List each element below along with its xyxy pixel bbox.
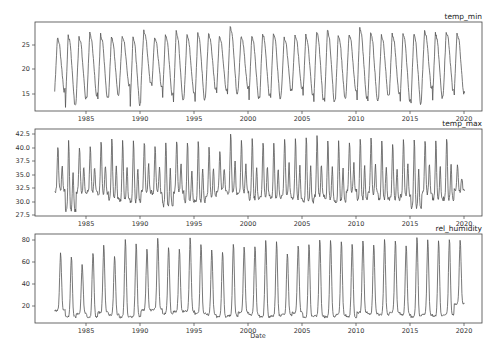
x-tick-label: 2005 (294, 220, 311, 228)
series-line-rel-humidity (55, 238, 465, 319)
x-tick-label: 1995 (186, 327, 203, 335)
series-line-temp-max (55, 134, 465, 212)
figure: temp_min15202519851990199520002005201020… (0, 0, 503, 353)
x-tick-label: 1985 (78, 220, 95, 228)
panel-title: temp_max (442, 119, 482, 128)
x-tick-label: 2010 (348, 115, 365, 123)
x-tick-label: 1995 (186, 220, 203, 228)
x-tick-label: 2000 (240, 220, 257, 228)
y-tick-label: 37.5 (16, 157, 30, 165)
y-tick-label: 40 (22, 280, 30, 288)
y-tick-label: 20 (22, 302, 30, 310)
x-tick-label: 2020 (456, 327, 473, 335)
y-tick-label: 60 (22, 258, 30, 266)
y-tick-label: 25 (22, 41, 30, 49)
x-tick-label: 2000 (240, 115, 257, 123)
x-tick-label: 1990 (132, 115, 149, 123)
x-axis-label: Date (250, 332, 266, 340)
y-tick-label: 30.0 (16, 198, 30, 206)
y-tick-label: 42.5 (16, 130, 30, 138)
x-tick-label: 2005 (294, 115, 311, 123)
y-tick-label: 32.5 (16, 184, 30, 192)
x-tick-label: 1995 (186, 115, 203, 123)
x-tick-label: 1985 (78, 327, 95, 335)
series-line-temp-min (55, 27, 465, 108)
x-tick-label: 2015 (402, 220, 419, 228)
y-tick-label: 20 (22, 65, 30, 73)
x-tick-label: 1990 (132, 327, 149, 335)
y-tick-label: 40.0 (16, 144, 30, 152)
x-tick-label: 2005 (294, 327, 311, 335)
x-tick-label: 2010 (348, 220, 365, 228)
x-tick-label: 2015 (402, 115, 419, 123)
y-tick-label: 15 (22, 90, 30, 98)
y-tick-label: 27.5 (16, 211, 30, 219)
panel-temp-min: temp_min15202519851990199520002005201020… (22, 12, 483, 123)
panel-title: rel_humidity (436, 224, 483, 233)
panel-title: temp_min (444, 12, 482, 21)
x-tick-label: 2015 (402, 327, 419, 335)
x-tick-label: 1990 (132, 220, 149, 228)
panel-temp-max: temp_max27.530.032.535.037.540.042.51985… (16, 119, 483, 228)
panel-rel-humidity: rel_humidity2040608019851990199520002005… (22, 224, 483, 335)
y-tick-label: 35.0 (16, 171, 30, 179)
x-tick-label: 2010 (348, 327, 365, 335)
x-tick-label: 1985 (78, 115, 95, 123)
y-tick-label: 80 (22, 236, 30, 244)
